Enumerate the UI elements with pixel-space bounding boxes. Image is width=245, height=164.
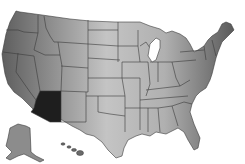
us-map-svg xyxy=(0,0,245,164)
us-map xyxy=(0,0,245,164)
state-hawaii[interactable] xyxy=(61,143,84,156)
state-alaska[interactable] xyxy=(6,124,44,162)
